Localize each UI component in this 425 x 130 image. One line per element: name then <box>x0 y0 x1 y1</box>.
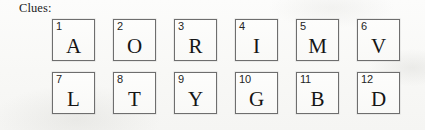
clue-box-4[interactable]: 4I <box>235 19 278 61</box>
clue-box-3[interactable]: 3R <box>174 19 217 61</box>
clue-number: 6 <box>361 20 367 33</box>
clue-number: 3 <box>178 20 184 33</box>
clue-letter: I <box>236 34 277 59</box>
clue-box-12[interactable]: 12D <box>357 72 400 114</box>
clues-label: Clues: <box>19 1 52 16</box>
clue-number: 9 <box>178 73 184 86</box>
clues-row: 7L8T9Y10G11B12D <box>52 72 418 124</box>
clue-letter: D <box>358 87 399 112</box>
clue-box-11[interactable]: 11B <box>296 72 339 114</box>
clue-number: 5 <box>300 20 306 33</box>
clue-number: 7 <box>56 73 62 86</box>
clue-box-9[interactable]: 9Y <box>174 72 217 114</box>
clue-number: 4 <box>239 20 245 33</box>
clue-letter: V <box>358 34 399 59</box>
clue-letter: A <box>53 34 94 59</box>
clue-number: 11 <box>300 73 311 86</box>
clue-letter: R <box>175 34 216 59</box>
clue-number: 2 <box>117 20 123 33</box>
clue-box-6[interactable]: 6V <box>357 19 400 61</box>
clue-letter: B <box>297 87 338 112</box>
clue-letter: T <box>114 87 155 112</box>
clue-number: 1 <box>56 20 62 33</box>
clues-row: 1A2O3R4I5M6V <box>52 19 418 71</box>
clue-box-10[interactable]: 10G <box>235 72 278 114</box>
clue-letter: Y <box>175 87 216 112</box>
clue-box-1[interactable]: 1A <box>52 19 95 61</box>
clue-letter: L <box>53 87 94 112</box>
clue-box-5[interactable]: 5M <box>296 19 339 61</box>
clue-letter: O <box>114 34 155 59</box>
clue-letter: M <box>297 34 338 59</box>
clue-box-2[interactable]: 2O <box>113 19 156 61</box>
clue-number: 10 <box>239 73 251 86</box>
clue-number: 12 <box>361 73 373 86</box>
clue-number: 8 <box>117 73 123 86</box>
clue-box-8[interactable]: 8T <box>113 72 156 114</box>
clue-box-7[interactable]: 7L <box>52 72 95 114</box>
clue-letter: G <box>236 87 277 112</box>
